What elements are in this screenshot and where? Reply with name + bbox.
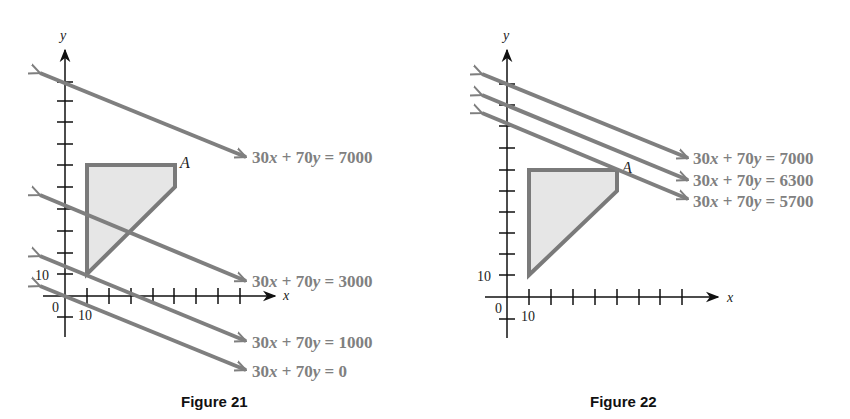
figure-21-plot: y x 0 10 10 A 30x + 70y = 7000 30x + 70y… (0, 0, 425, 419)
y-axis-label: y (501, 28, 510, 43)
figure-caption: Figure 22 (590, 393, 657, 410)
y-tick-label: 10 (477, 269, 491, 284)
figure-22: y x 0 10 10 A 30x + 70y = 7000 30x + 70y… (425, 0, 850, 419)
equation-label-6300: 30x + 70y = 6300 (693, 171, 813, 190)
x-axis-label: x (726, 290, 734, 305)
equation-label-7000: 30x + 70y = 7000 (693, 149, 813, 168)
y-axis-label: y (58, 28, 67, 43)
line-6300 (482, 95, 688, 180)
equation-label-1000: 30x + 70y = 1000 (252, 333, 372, 352)
x-tick-label: 10 (78, 308, 92, 323)
figure-22-plot: y x 0 10 10 A 30x + 70y = 7000 30x + 70y… (425, 0, 850, 419)
x-tick-label: 10 (521, 309, 535, 324)
origin-label: 0 (52, 300, 59, 315)
figure-caption: Figure 21 (181, 393, 248, 410)
equation-label-0: 30x + 70y = 0 (252, 362, 347, 381)
y-tick-label: 10 (35, 268, 49, 283)
origin-label: 0 (495, 301, 502, 316)
figure-21: y x 0 10 10 A 30x + 70y = 7000 30x + 70y… (0, 0, 425, 419)
equation-label-7000: 30x + 70y = 7000 (252, 148, 372, 167)
equation-label-5700: 30x + 70y = 5700 (693, 192, 813, 211)
feasible-region (529, 170, 617, 275)
equation-label-3000: 30x + 70y = 3000 (252, 272, 372, 291)
vertex-label-a: A (179, 154, 190, 171)
line-7000 (482, 74, 688, 158)
